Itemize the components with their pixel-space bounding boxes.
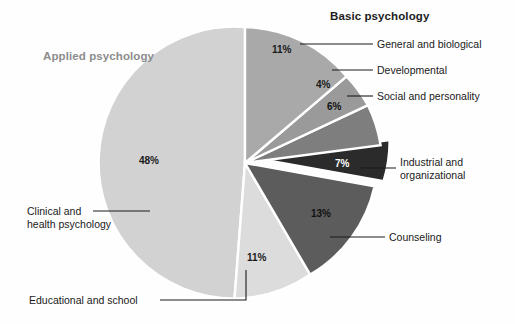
- callout-label-industrial-and-organizational[interactable]: Industrial and organizational: [400, 156, 465, 181]
- callout-label-social-and-personality[interactable]: Social and personality: [377, 90, 480, 103]
- slice-value-clinical-and-health-psychology: 48%: [139, 155, 159, 166]
- slice-value-developmental: 4%: [316, 79, 330, 90]
- callout-line: Developmental: [377, 64, 447, 77]
- callout-line: General and biological: [377, 38, 482, 51]
- callout-label-general-and-biological[interactable]: General and biological: [377, 38, 482, 51]
- callout-line: Industrial and: [400, 156, 465, 169]
- slice-value-educational-and-school: 11%: [247, 252, 266, 263]
- callout-label-clinical-and-health-psychology[interactable]: Clinical and health psychology: [27, 205, 111, 230]
- slice-value-industrial-and-organizational: 7%: [335, 158, 349, 169]
- callout-label-educational-and-school[interactable]: Educational and school: [29, 294, 138, 307]
- callout-label-developmental[interactable]: Developmental: [377, 64, 447, 77]
- callout-line: Counseling: [389, 231, 442, 244]
- callout-line: organizational: [400, 169, 465, 182]
- group-title-applied-psychology: Applied psychology: [43, 50, 154, 62]
- callout-line: health psychology: [27, 218, 111, 231]
- group-title-basic-psychology: Basic psychology: [330, 10, 429, 22]
- callout-label-counseling[interactable]: Counseling: [389, 231, 442, 244]
- slice-value-counseling: 13%: [311, 208, 331, 219]
- slice-value-general-and-biological: 11%: [272, 44, 291, 55]
- pie-slice-clinical-and-health-psychology[interactable]: [99, 27, 245, 299]
- pie-chart-figure: Basic psychology Applied psychology Gene…: [0, 0, 515, 324]
- callout-line: Social and personality: [377, 90, 480, 103]
- callout-line: Clinical and: [27, 205, 111, 218]
- callout-line: Educational and school: [29, 294, 138, 307]
- slice-value-social-and-personality: 6%: [327, 101, 341, 112]
